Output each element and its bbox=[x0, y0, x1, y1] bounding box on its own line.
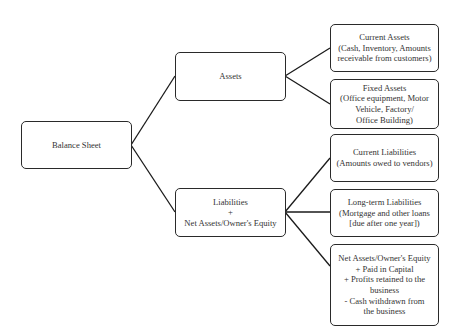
node-label: Balance Sheet bbox=[52, 140, 101, 151]
node-text-line: (Cash, Inventory, Amounts bbox=[338, 43, 431, 54]
node-text-line: receivable from customers) bbox=[337, 53, 431, 64]
node-title: Current Assets bbox=[359, 32, 409, 43]
node-text-line: - Cash withdrawn from bbox=[345, 296, 425, 307]
node-net-assets-equity: Net Assets/Owner's Equity + Paid in Capi… bbox=[330, 244, 439, 326]
node-liabilities-equity: Liabilities + Net Assets/Owner's Equity bbox=[175, 188, 286, 237]
node-label-line: Liabilities bbox=[213, 197, 248, 208]
node-text-line: Office Building) bbox=[356, 115, 413, 126]
node-text-line: + Profits retained to the bbox=[344, 274, 425, 285]
link-root-assets bbox=[131, 76, 175, 145]
node-title: Long-term Liabilities bbox=[348, 197, 422, 208]
link-assets-fixed bbox=[285, 76, 330, 104]
link-liab-equity bbox=[285, 212, 330, 266]
node-text-line: (Amounts owed to vendors) bbox=[336, 158, 432, 169]
node-label-line: Net Assets/Owner's Equity bbox=[184, 218, 276, 229]
node-label: Assets bbox=[219, 71, 241, 82]
node-current-assets: Current Assets (Cash, Inventory, Amounts… bbox=[330, 24, 439, 72]
node-assets: Assets bbox=[175, 52, 286, 101]
node-text-line: [due after one year]) bbox=[349, 218, 419, 229]
node-label-line: + bbox=[228, 207, 233, 218]
node-longterm-liabilities: Long-term Liabilities (Mortgage and othe… bbox=[330, 189, 439, 237]
node-title: Current Liabilities bbox=[353, 147, 416, 158]
node-text-line: + Paid in Capital bbox=[355, 264, 413, 275]
node-title: Fixed Assets bbox=[363, 83, 407, 94]
node-text-line: (Office equipment, Motor bbox=[340, 93, 429, 104]
node-text-line: (Mortgage and other loans bbox=[339, 208, 430, 219]
node-text-line: Vehicle, Factory/ bbox=[355, 104, 414, 115]
node-current-liabilities: Current Liabilities (Amounts owed to ven… bbox=[330, 134, 439, 182]
link-assets-current bbox=[285, 48, 330, 76]
node-text-line: the business bbox=[364, 306, 406, 317]
link-root-liabilities bbox=[131, 145, 175, 212]
node-balance-sheet: Balance Sheet bbox=[21, 121, 132, 169]
link-liab-current bbox=[285, 158, 330, 212]
node-title: Net Assets/Owner's Equity bbox=[338, 253, 430, 264]
node-text-line: business bbox=[370, 285, 399, 296]
node-fixed-assets: Fixed Assets (Office equipment, Motor Ve… bbox=[330, 79, 439, 129]
